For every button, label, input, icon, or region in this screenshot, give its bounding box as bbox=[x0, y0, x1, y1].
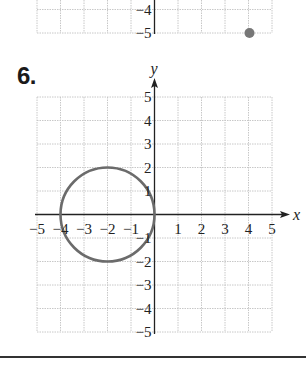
x-tick-label: −3 bbox=[76, 221, 92, 237]
x-tick-label: 1 bbox=[174, 221, 182, 237]
x-tick-label: −5 bbox=[29, 221, 45, 237]
x-tick-label: 4 bbox=[245, 221, 253, 237]
x-tick-label: 5 bbox=[268, 221, 276, 237]
y-axis-label: y bbox=[149, 60, 159, 78]
section-divider bbox=[0, 356, 306, 358]
y-tick-label: 5 bbox=[144, 89, 152, 105]
x-axis-label: x bbox=[292, 206, 300, 223]
y-tick-label: 1 bbox=[144, 183, 152, 199]
y-tick-label: −5 bbox=[136, 324, 152, 340]
y-tick-label: −4 bbox=[136, 301, 152, 317]
y-tick-label: 2 bbox=[144, 160, 152, 176]
x-tick-label: −2 bbox=[100, 221, 116, 237]
graph-canvas: −4−5 xy−5−4−3−2−11234554321−1−2−3−4−5 bbox=[0, 0, 306, 365]
y-tick-label: 3 bbox=[144, 136, 152, 152]
previous-graph: −4−5 bbox=[37, 0, 272, 41]
y-tick-label: −3 bbox=[136, 277, 152, 293]
y-tick-label: −4 bbox=[136, 2, 152, 18]
x-tick-label: 3 bbox=[221, 221, 229, 237]
problem-number: 6. bbox=[17, 62, 36, 90]
tick-labels: xy−5−4−3−2−11234554321−1−2−3−4−5 bbox=[29, 60, 300, 340]
y-tick-label: 4 bbox=[144, 113, 152, 129]
y-tick-label: −2 bbox=[136, 254, 152, 270]
plotted-point bbox=[245, 28, 255, 38]
x-tick-label: −4 bbox=[53, 221, 69, 237]
y-tick-label: −5 bbox=[136, 25, 152, 41]
coordinate-axes bbox=[35, 78, 290, 334]
x-tick-label: 2 bbox=[198, 221, 206, 237]
y-tick-label: −1 bbox=[136, 230, 152, 246]
